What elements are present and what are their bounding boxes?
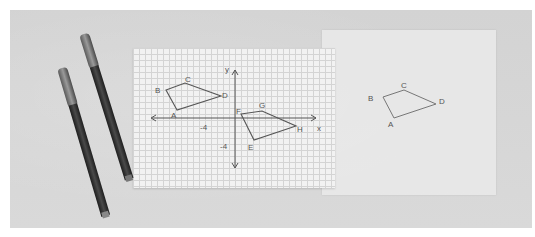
x-axis-label: x: [317, 124, 321, 133]
vertex-label-a: A: [171, 111, 177, 120]
traced-label-c: C: [401, 81, 407, 90]
quadrilateral-efgh: [241, 111, 296, 140]
traced-label-d: D: [439, 97, 445, 106]
vertex-label-h: H: [297, 125, 303, 134]
marker-body: [68, 103, 110, 217]
marker-cap: [79, 33, 99, 70]
quadrilateral-abcd: [166, 83, 221, 110]
vertex-label-f: F: [236, 107, 241, 116]
y-axis-label: y: [225, 65, 229, 74]
traced-label-b: B: [368, 94, 373, 103]
drawing-layer: x y -4 -4 A B C D E F G H A B C D: [0, 0, 535, 237]
marker-body: [90, 65, 134, 180]
x-tick-label: -4: [200, 123, 208, 132]
vertex-label-d: D: [222, 91, 228, 100]
traced-label-a: A: [388, 120, 394, 129]
y-tick-label: -4: [220, 142, 228, 151]
vertex-label-b: B: [155, 86, 160, 95]
marker-cap: [57, 67, 78, 108]
traced-quadrilateral-abcd: [383, 90, 436, 118]
vertex-label-e: E: [248, 143, 253, 152]
vertex-label-c: C: [185, 75, 191, 84]
vertex-label-g: G: [259, 101, 265, 110]
